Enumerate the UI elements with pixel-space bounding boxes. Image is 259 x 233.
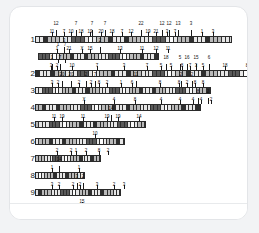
segment-annotation: 21	[153, 29, 158, 34]
chromosome-row: 4X484448422	[21, 97, 215, 115]
segment-annotation: 10	[92, 131, 97, 136]
segment-annotation: 7	[189, 63, 192, 68]
segment-annotation: 15	[193, 55, 198, 60]
segment-annotation: 13	[117, 46, 122, 51]
chromosome-track	[35, 121, 146, 128]
segment-annotation: 19	[145, 29, 150, 34]
segment-tick	[62, 81, 63, 87]
segment-annotation: 7	[75, 21, 78, 26]
segment-annotation: 13	[175, 21, 180, 26]
segment-annotation: 11	[81, 114, 86, 119]
segment-annotation: 3	[76, 174, 79, 179]
segment-annotation: 8	[98, 148, 101, 153]
figure-card: 1121177101871972018722121921121213337133…	[9, 6, 248, 220]
chromosome-track	[38, 53, 159, 60]
chromosome-track	[35, 138, 125, 145]
chromosome-row: 9323222323	[21, 182, 135, 200]
segment-annotation: 15	[87, 46, 92, 51]
segment-annotation: 5	[160, 63, 163, 68]
footer-area	[10, 204, 248, 220]
segment-annotation: 11	[50, 29, 55, 34]
segment-annotation: 12	[128, 29, 133, 34]
segment-tick	[111, 115, 112, 121]
segment-annotation: 2	[90, 80, 93, 85]
row-label-7: 7	[21, 154, 35, 163]
segment-annotation: 19	[104, 114, 109, 119]
segment-annotation: 6	[131, 80, 134, 85]
chromosome-track	[35, 189, 121, 196]
row-label-9: 9	[21, 188, 35, 197]
segment-annotation: 10	[68, 29, 73, 34]
segment-tick	[162, 30, 163, 36]
segment-annotation: 20	[59, 72, 64, 77]
segment-annotation: 3	[50, 63, 53, 68]
segment-annotation: 8	[197, 89, 200, 94]
segment-annotation: X	[80, 46, 83, 51]
segment-annotation: 2	[85, 72, 88, 77]
segment-annotation: 19	[115, 114, 120, 119]
chromosome-row: 3121X1521311121117	[21, 46, 173, 64]
segment-annotation: 8	[246, 63, 248, 68]
chromosome-track	[35, 87, 211, 94]
segment-annotation: 18	[163, 55, 168, 60]
segment-annotation: 14	[108, 106, 113, 111]
segment-tick	[166, 64, 167, 70]
segment-annotation: 1	[51, 165, 54, 170]
track-segment	[196, 105, 199, 110]
segment-annotation: 2	[107, 148, 110, 153]
segment-annotation: 8	[202, 80, 205, 85]
segment-annotation: 8	[159, 80, 162, 85]
segment-annotation: 18	[109, 29, 114, 34]
segment-annotation: 2	[56, 148, 59, 153]
row-label-1: 1	[21, 35, 35, 44]
segment-annotation: 4	[200, 97, 203, 102]
segment-annotation: 12	[53, 21, 58, 26]
segment-annotation: 3	[212, 29, 215, 34]
segment-tick	[178, 30, 179, 36]
segment-annotation: 14	[136, 114, 141, 119]
segment-annotation: 1	[57, 42, 60, 47]
segment-annotation: 6	[208, 55, 211, 60]
segment-annotation: 8	[98, 80, 101, 85]
segment-annotation: 7	[59, 55, 62, 60]
track-segment	[97, 156, 100, 161]
segment-annotation: 16	[184, 55, 189, 60]
segment-tick	[59, 166, 60, 172]
segment-annotation: 5	[179, 55, 182, 60]
segment-tick	[86, 81, 87, 87]
segment-annotation: 12	[153, 46, 158, 51]
segment-annotation: 2	[210, 97, 213, 102]
row-label-4: 4	[21, 103, 35, 112]
segment-annotation: X	[82, 97, 85, 102]
segment-annotation: 2	[79, 182, 82, 187]
row-label-2: 2	[21, 69, 35, 78]
row-label-3: 3	[21, 86, 35, 95]
track-segment	[117, 190, 120, 195]
segment-annotation: 2	[180, 72, 183, 77]
segment-annotation: 2	[56, 63, 59, 68]
segment-annotation: 3	[166, 29, 169, 34]
segment-annotation: 4	[179, 97, 182, 102]
segment-annotation: 11	[166, 46, 171, 51]
chromosome-track	[35, 155, 101, 162]
track-segment	[142, 122, 145, 127]
segment-annotation: 2	[113, 182, 116, 187]
segment-annotation: 3	[51, 80, 54, 85]
segment-annotation: 1	[201, 29, 204, 34]
segment-annotation: 19	[59, 114, 64, 119]
chromosome-track	[35, 104, 201, 111]
segment-tick	[100, 47, 101, 53]
segment-annotation: 12	[166, 21, 171, 26]
segment-tick	[64, 47, 65, 53]
segment-annotation: 7	[146, 63, 149, 68]
segment-annotation: 2	[72, 182, 75, 187]
track-segment	[226, 37, 230, 42]
segment-annotation: 20	[68, 72, 73, 77]
ideogram-figure: 1121177101871972018722121921121213337133…	[10, 7, 248, 203]
segment-annotation: 2	[99, 38, 102, 43]
segment-annotation: 18	[222, 63, 227, 68]
segment-tick	[209, 64, 210, 70]
segment-tick	[95, 81, 96, 87]
segment-annotation: 7	[94, 72, 97, 77]
segment-annotation: 18	[78, 29, 83, 34]
